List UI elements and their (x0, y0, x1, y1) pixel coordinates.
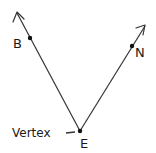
point-e (78, 129, 82, 133)
ray-en (80, 26, 145, 131)
label-e: E (80, 136, 88, 151)
point-b (28, 36, 32, 40)
vertex-dash (66, 132, 75, 133)
label-b: B (13, 36, 22, 51)
angle-diagram: B N E Vertex (0, 0, 156, 153)
label-vertex: Vertex (12, 126, 51, 140)
label-n: N (135, 45, 145, 60)
point-n (130, 44, 134, 48)
ray-eb (17, 13, 80, 131)
